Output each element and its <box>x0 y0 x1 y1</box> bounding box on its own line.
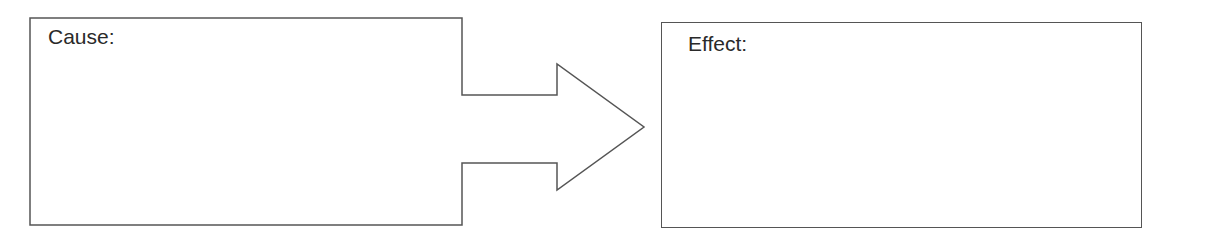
right-arrow-icon <box>30 18 644 225</box>
effect-label: Effect: <box>688 33 747 54</box>
cause-label: Cause: <box>48 26 115 47</box>
